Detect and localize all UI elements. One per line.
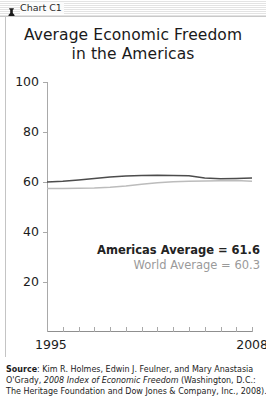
window-title: Chart C1 bbox=[20, 2, 64, 14]
y-tick-label-100: 100 bbox=[15, 74, 39, 89]
chart-annotations: Americas Average = 61.6 World Average = … bbox=[0, 243, 260, 273]
y-tick-label-80: 80 bbox=[23, 124, 39, 139]
bell-icon bbox=[6, 3, 17, 14]
source-line-2-a: O'Grady, bbox=[6, 376, 44, 385]
source-line-1-rest: : Kim R. Holmes, Edwin J. Feulner, and M… bbox=[37, 365, 253, 374]
y-tick-label-20: 20 bbox=[23, 274, 39, 289]
chart-title: Average Economic Freedom in the Americas bbox=[0, 26, 266, 64]
series-line-world bbox=[47, 181, 252, 189]
plot-area: 100 80 60 40 20 1995 2008 bbox=[47, 82, 252, 332]
source-line-2-b: (Washington, D.C.: bbox=[178, 376, 255, 385]
source-line-3: The Heritage Foundation and Dow Jones & … bbox=[6, 386, 258, 397]
annotation-world-average: World Average = 60.3 bbox=[0, 258, 260, 273]
x-tick-13 bbox=[252, 327, 253, 332]
y-tick-label-40: 40 bbox=[23, 224, 39, 239]
y-tick-label-60: 60 bbox=[23, 174, 39, 189]
source-note: Source: Kim R. Holmes, Edwin J. Feulner,… bbox=[6, 364, 258, 398]
window-titlebar: Chart C1 bbox=[0, 0, 266, 17]
source-line-2: O'Grady, 2008 Index of Economic Freedom … bbox=[6, 375, 258, 386]
chart-window: Chart C1 Average Economic Freedom in the… bbox=[0, 0, 266, 403]
series-lines bbox=[47, 82, 252, 332]
source-title-italic: 2008 Index of Economic Freedom bbox=[44, 376, 179, 385]
chart-title-line1: Average Economic Freedom bbox=[24, 26, 242, 44]
annotation-americas-average: Americas Average = 61.6 bbox=[0, 243, 260, 258]
chart-title-line2: in the Americas bbox=[0, 45, 266, 64]
x-tick-label-end: 2008 bbox=[236, 337, 266, 352]
x-tick-label-start: 1995 bbox=[35, 337, 67, 352]
source-prefix: Source bbox=[6, 365, 37, 374]
source-line-1: Source: Kim R. Holmes, Edwin J. Feulner,… bbox=[6, 364, 258, 375]
